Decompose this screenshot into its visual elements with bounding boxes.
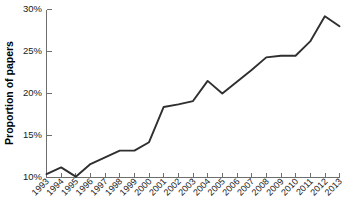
x-tick-labels: 1993 1994 1995 1996 1997 1998 1999 2000 … xyxy=(30,176,344,197)
x-tick-marks xyxy=(47,173,340,178)
line-chart: Proportion of papers 30% 25% 20% 15% 10% xyxy=(0,0,346,207)
y-tick-label: 30% xyxy=(23,3,43,14)
y-axis-title-group: Proportion of papers xyxy=(3,41,15,145)
plot-area xyxy=(47,16,340,176)
data-series-line xyxy=(47,16,340,176)
y-tick-labels: 30% 25% 20% 15% 10% xyxy=(23,3,43,182)
y-tick-label: 25% xyxy=(23,45,43,56)
y-tick-label: 20% xyxy=(23,87,43,98)
y-tick-label: 15% xyxy=(23,129,43,140)
x-tick-label: 2013 xyxy=(323,176,344,197)
y-axis xyxy=(47,10,52,178)
chart-figure: Proportion of papers 30% 25% 20% 15% 10% xyxy=(0,0,346,207)
y-axis-title: Proportion of papers xyxy=(3,41,15,145)
